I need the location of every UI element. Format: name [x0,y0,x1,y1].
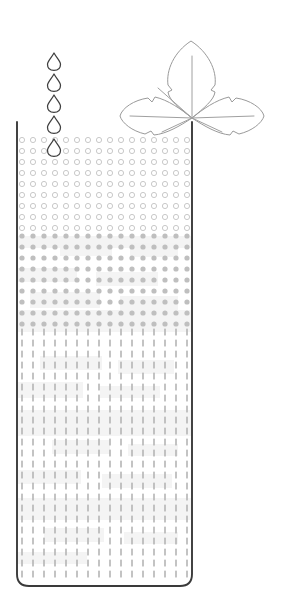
grid-symbol-dash [142,494,144,501]
grid-symbol-ring [63,181,68,186]
grid-symbol-dash [98,406,100,413]
grid-symbol-dash [21,362,23,369]
grid-symbol-dot [85,321,90,326]
grid-symbol-dash [98,461,100,468]
grid-symbol-dot [140,266,145,271]
grid-symbol-dash [21,549,23,556]
grid-symbol-dash [43,560,45,567]
grid-symbol-ring [118,137,123,142]
grid-symbol-dot [162,288,167,293]
grid-symbol-dot [52,266,57,271]
grid-symbol-dash [109,516,111,523]
grid-symbol-dot [63,288,68,293]
grid-symbol-dash [98,549,100,556]
grid-symbol-ring [162,214,167,219]
grid-symbol-dot [129,255,134,260]
grid-symbol-dash [142,395,144,402]
grid-symbol-dash [153,483,155,490]
grid-symbol-dash [164,395,166,402]
grid-symbol-dot [107,277,112,282]
grid-symbol-dash [131,527,133,534]
grid-symbol-dot [96,321,101,326]
grid-symbol-dot [30,255,35,260]
grid-symbol-dash [186,560,188,567]
grid-symbol-dash [120,362,122,369]
grid-symbol-dot [63,277,68,282]
grid-symbol-ring [85,214,90,219]
grid-symbol-ring [74,203,79,208]
grid-symbol-dash [153,450,155,457]
grid-symbol-dash [120,329,122,336]
grid-symbol-dash [65,527,67,534]
grid-symbol-dash [164,406,166,413]
grid-symbol-dash [98,351,100,358]
diagram-svg [0,0,288,611]
grid-symbol-dash [32,538,34,545]
grid-symbol-dot [184,321,189,326]
grid-symbol-dash [142,340,144,347]
grid-symbol-dash [186,329,188,336]
grid-symbol-dash [120,494,122,501]
grid-symbol-dash [43,450,45,457]
grid-symbol-dash [153,560,155,567]
grid-symbol-dash [87,384,89,391]
grid-symbol-dash [98,560,100,567]
grid-symbol-dot [19,244,24,249]
grid-symbol-dash [186,362,188,369]
grid-symbol-dot [118,299,123,304]
grid-symbol-ring [184,203,189,208]
grid-symbol-dot [85,244,90,249]
grid-symbol-dot [30,233,35,238]
grid-symbol-ring [85,225,90,230]
grid-symbol-dash [32,395,34,402]
grid-symbol-dot [74,288,79,293]
grid-symbol-dash [87,505,89,512]
grid-symbol-dash [109,395,111,402]
grid-symbol-dash [175,395,177,402]
grid-symbol-dash [142,483,144,490]
grid-symbol-dash [164,571,166,578]
grid-symbol-dash [43,527,45,534]
grid-symbol-dash [131,439,133,446]
grid-symbol-dot [118,288,123,293]
grid-symbol-dash [164,538,166,545]
grid-symbol-dash [76,329,78,336]
grid-symbol-ring [41,170,46,175]
grid-symbol-dot [41,244,46,249]
shade-patch [102,474,172,488]
grid-symbol-dot [184,255,189,260]
grid-symbol-dash [21,472,23,479]
grid-symbol-dash [142,527,144,534]
grid-symbol-ring [140,203,145,208]
grid-symbol-dot [118,255,123,260]
grid-symbol-dot [19,266,24,271]
grid-symbol-dash [32,571,34,578]
grid-symbol-dash [98,505,100,512]
grid-symbol-dash [98,439,100,446]
grid-symbol-dot [151,277,156,282]
grid-symbol-ring [41,192,46,197]
grid-symbol-ring [30,214,35,219]
grid-symbol-dot [140,244,145,249]
grid-symbol-dot [162,310,167,315]
diagram-canvas [0,0,288,611]
grid-symbol-dot [129,321,134,326]
grid-symbol-ring [162,148,167,153]
falling-water-droplets [48,53,61,156]
grid-symbol-dash [142,384,144,391]
shade-patch [100,386,160,398]
grid-symbol-ring [151,214,156,219]
grid-symbol-dash [87,472,89,479]
grid-symbol-dot [30,266,35,271]
grid-symbol-ring [85,159,90,164]
grid-symbol-dash [76,527,78,534]
grid-symbol-dash [32,527,34,534]
grid-symbol-ring [19,170,24,175]
grid-symbol-dot [41,233,46,238]
grid-symbol-dash [153,362,155,369]
grid-symbol-ring [162,203,167,208]
shade-patch [52,440,110,454]
grid-symbol-ring [85,170,90,175]
grid-symbol-dash [175,538,177,545]
grid-symbol-dash [43,406,45,413]
